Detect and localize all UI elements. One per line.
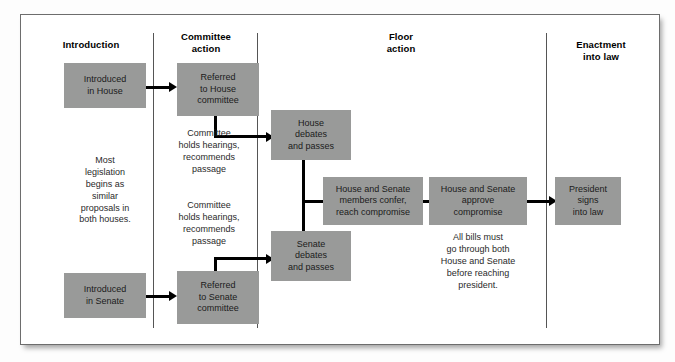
note-most-legislation: Most legislation begins as similar propo…	[57, 155, 153, 226]
box-referred-to-senate-committee-line1: Referred	[197, 280, 239, 291]
note-most-legislation-line6: both houses.	[57, 214, 153, 226]
box-introduced-in-house[interactable]: Introduced in House	[64, 63, 146, 108]
note-committee-hearings-senate: Committee holds hearings, recommends pas…	[162, 200, 256, 248]
divider-introduction-committee	[153, 33, 154, 328]
note-hearings-senate-line2: holds hearings,	[162, 212, 256, 224]
column-header-introduction-label: Introduction	[63, 39, 120, 50]
box-referred-to-house-committee-line1: Referred	[197, 72, 239, 83]
box-approve-compromise-line1: House and Senate	[441, 184, 516, 195]
note-all-bills-line1: All bills must	[426, 232, 530, 244]
box-introduced-in-house-line1: Introduced	[84, 74, 127, 85]
box-introduced-in-senate-line1: Introduced	[84, 284, 127, 295]
box-senate-debates-and-passes[interactable]: Senate debates and passes	[271, 231, 351, 281]
note-all-bills-line4: before reaching	[426, 268, 530, 280]
box-referred-to-senate-committee-line3: committee	[197, 303, 239, 314]
note-hearings-senate-line4: passage	[162, 236, 256, 248]
note-hearings-house-line2: holds hearings,	[162, 140, 256, 152]
diagram-stage: Introduction Committee action Floor acti…	[0, 0, 675, 362]
connector-referred-senate-elbow-horizontal	[214, 257, 268, 260]
box-house-debates-line3: and passes	[288, 141, 334, 152]
box-approve-compromise[interactable]: House and Senate approve compromise	[429, 177, 527, 225]
arrowhead-referred-senate	[169, 291, 177, 301]
column-header-floor-line1: Floor	[321, 31, 481, 43]
note-hearings-house-line1: Committee	[162, 128, 256, 140]
note-hearings-house-line4: passage	[162, 164, 256, 176]
box-introduced-in-senate[interactable]: Introduced in Senate	[64, 273, 146, 318]
box-house-debates-and-passes[interactable]: House debates and passes	[271, 110, 351, 160]
column-header-committee-line1: Committee	[161, 31, 251, 43]
connector-approve-to-president	[526, 200, 551, 203]
box-referred-to-senate-committee[interactable]: Referred to Senate committee	[177, 271, 259, 324]
column-header-introduction: Introduction	[31, 39, 151, 51]
box-house-debates-line1: House	[288, 118, 334, 129]
connector-introduced-house-to-referred	[145, 86, 171, 89]
column-header-enactment: Enactment into law	[551, 39, 651, 63]
column-header-committee-line2: action	[161, 43, 251, 55]
diagram-panel: Introduction Committee action Floor acti…	[20, 14, 660, 345]
divider-floor-enactment	[546, 33, 547, 328]
box-members-confer[interactable]: House and Senate members confer, reach c…	[323, 177, 423, 225]
box-president-signs-into-law[interactable]: President signs into law	[555, 177, 621, 225]
box-members-confer-line1: House and Senate	[336, 184, 411, 195]
box-referred-to-house-committee-line3: committee	[197, 95, 239, 106]
note-hearings-house-line3: recommends	[162, 152, 256, 164]
box-referred-to-house-committee[interactable]: Referred to House committee	[177, 63, 259, 116]
note-all-bills-line2: go through both	[426, 244, 530, 256]
box-president-line3: into law	[569, 207, 607, 218]
note-most-legislation-line3: begins as	[57, 179, 153, 191]
column-header-enactment-line1: Enactment	[551, 39, 651, 51]
box-introduced-in-senate-line2: in Senate	[84, 296, 127, 307]
box-members-confer-line2: members confer,	[336, 195, 411, 206]
column-header-committee: Committee action	[161, 31, 251, 55]
column-header-floor: Floor action	[321, 31, 481, 55]
column-header-enactment-line2: into law	[551, 51, 651, 63]
note-all-bills-line3: House and Senate	[426, 256, 530, 268]
note-most-legislation-line1: Most	[57, 155, 153, 167]
box-senate-debates-line3: and passes	[288, 262, 334, 273]
box-senate-debates-line2: debates	[288, 250, 334, 261]
box-senate-debates-line1: Senate	[288, 239, 334, 250]
connector-introduced-senate-to-referred	[145, 295, 171, 298]
note-most-legislation-line2: legislation	[57, 167, 153, 179]
note-most-legislation-line4: similar	[57, 191, 153, 203]
note-all-bills-line5: president.	[426, 280, 530, 292]
note-most-legislation-line5: proposals in	[57, 203, 153, 215]
note-all-bills-must: All bills must go through both House and…	[426, 232, 530, 291]
box-referred-to-house-committee-line2: to House	[197, 84, 239, 95]
box-approve-compromise-line2: approve	[441, 195, 516, 206]
note-hearings-senate-line1: Committee	[162, 200, 256, 212]
box-members-confer-line3: reach compromise	[336, 207, 411, 218]
box-referred-to-senate-committee-line2: to Senate	[197, 292, 239, 303]
box-approve-compromise-line3: compromise	[441, 207, 516, 218]
box-president-line2: signs	[569, 195, 607, 206]
note-hearings-senate-line3: recommends	[162, 224, 256, 236]
note-committee-hearings-house: Committee holds hearings, recommends pas…	[162, 128, 256, 176]
column-header-floor-line2: action	[321, 43, 481, 55]
box-house-debates-line2: debates	[288, 129, 334, 140]
box-introduced-in-house-line2: in House	[84, 86, 127, 97]
arrowhead-referred-house	[169, 82, 177, 92]
box-president-line1: President	[569, 184, 607, 195]
